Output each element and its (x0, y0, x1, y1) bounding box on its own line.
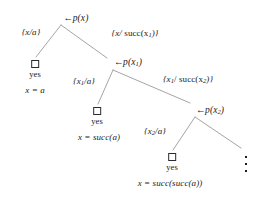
left-arrow-icon: ← (114, 57, 123, 67)
substitution-text: {x/a} (22, 27, 41, 37)
dot (245, 163, 247, 165)
substitution-prefix: {x (73, 76, 81, 86)
goal-level1-head: p(x (123, 57, 135, 67)
substitution-suffix: /a} (155, 126, 166, 136)
edge-root-right (61, 25, 107, 58)
empty-clause-box-icon (168, 153, 176, 161)
substitution-suffix: )} (206, 74, 213, 84)
leaf-status-label: yes (91, 116, 103, 126)
substitution-suffix: )} (152, 28, 159, 38)
substitution-label-root-left: {x/a} (22, 27, 41, 37)
goal-node-root: ←p(x) (64, 13, 89, 23)
empty-clause-box-icon (31, 60, 39, 68)
goal-level1-tail: ) (139, 57, 142, 67)
goal-level2-tail: ) (221, 105, 224, 115)
leaf-status-label: yes (29, 69, 41, 79)
answer-substitution-3: x = succ(succ(a)) (138, 178, 203, 188)
sld-resolution-tree-figure: ←p(x) ←p(x1) ←p(x2) {x/a} {x/ succ(x1)} … (0, 0, 265, 202)
goal-level2-head: p(x (205, 105, 217, 115)
left-arrow-icon: ← (64, 13, 73, 23)
substitution-label-level2-left: {x2/a} (144, 126, 166, 136)
success-leaf-1: yes (29, 60, 41, 79)
dot (245, 156, 247, 158)
edge-level2-right (195, 117, 241, 148)
dot (245, 170, 247, 172)
substitution-label-root-right: {x/ succ(x1)} (112, 28, 159, 38)
edge-level1-left (98, 70, 113, 104)
continuation-vertical-dots-icon (245, 156, 247, 172)
goal-node-level2: ←p(x2) (196, 105, 224, 115)
substitution-prefix: {x (144, 126, 152, 136)
substitution-suffix: /a} (84, 76, 95, 86)
substitution-label-level1-left: {x1/a} (73, 76, 95, 86)
substitution-label-level1-right: {x1/ succ(x2)} (163, 74, 213, 84)
edge-level2-left (173, 117, 195, 150)
substitution-prefix: {x (163, 74, 171, 84)
goal-node-level1: ←p(x1) (114, 57, 142, 67)
answer-substitution-1: x = a (25, 85, 45, 95)
success-leaf-2: yes (91, 107, 103, 126)
substitution-function: / succ(x (174, 74, 203, 84)
leaf-status-label: yes (166, 162, 178, 172)
answer-substitution-2: x = succ(a) (78, 132, 120, 142)
empty-clause-box-icon (93, 107, 101, 115)
left-arrow-icon: ← (196, 105, 205, 115)
substitution-prefix: {x/ (112, 28, 125, 38)
substitution-function: succ(x (124, 28, 148, 38)
goal-root-label: p(x) (73, 13, 89, 23)
success-leaf-3: yes (166, 153, 178, 172)
